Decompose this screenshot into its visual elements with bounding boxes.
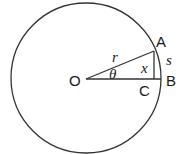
label-C: C — [139, 82, 150, 99]
label-height-x: x — [140, 60, 148, 76]
circle — [11, 3, 161, 153]
label-O: O — [69, 72, 81, 89]
circle-diagram: O A B C r θ x s — [0, 0, 179, 154]
label-arc-s: s — [166, 52, 172, 68]
label-B: B — [166, 72, 176, 89]
label-radius-r: r — [112, 49, 118, 65]
label-A: A — [156, 33, 166, 50]
label-angle-theta: θ — [109, 66, 117, 82]
